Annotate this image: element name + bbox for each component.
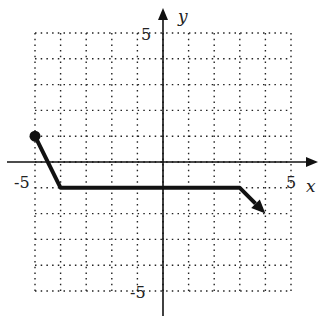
x-axis-label: x	[306, 176, 316, 196]
y-max-label: 5	[141, 25, 151, 44]
closed-dot-marker	[30, 131, 41, 142]
graph-line	[35, 136, 256, 203]
x-axis-arrow-icon	[306, 157, 318, 167]
y-min-label: -5	[130, 283, 146, 302]
x-min-label: -5	[14, 173, 30, 192]
x-max-label: 5	[286, 173, 296, 192]
coordinate-plane: 5 -5 -5 5 y x	[0, 0, 328, 322]
y-axis-arrow-icon	[158, 8, 168, 20]
y-axis-label: y	[177, 6, 188, 26]
